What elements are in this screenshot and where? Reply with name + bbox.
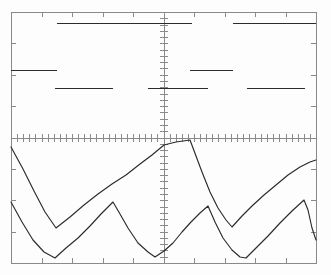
scope-canvas [0,0,331,275]
screen-background [0,0,331,275]
oscilloscope-screen: Oscilloscope Display Dual-trace capture:… [0,0,331,275]
